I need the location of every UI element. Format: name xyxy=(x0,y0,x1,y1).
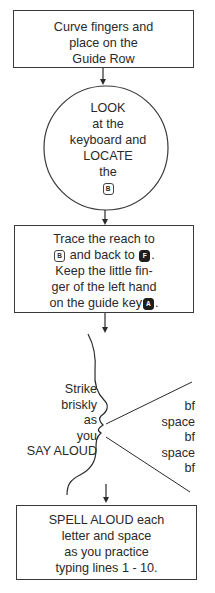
step2-line: at the xyxy=(48,116,168,132)
step3-text: . xyxy=(155,296,159,310)
step3-line: Keep the little fin- xyxy=(15,263,193,279)
spoken-item: bf xyxy=(161,430,195,446)
step4-left-line: as xyxy=(27,413,97,429)
step3-line: B and back to F. xyxy=(15,247,193,263)
spoken-item: space xyxy=(161,415,195,431)
step3-line: Trace the reach to xyxy=(15,231,193,247)
step4-left-line: SAY ALOUD xyxy=(27,444,97,460)
step5-line: typing lines 1 - 10. xyxy=(17,560,196,576)
step2-line: LOCATE xyxy=(48,148,168,164)
step3-box: Trace the reach to B and back to F. Keep… xyxy=(14,225,194,313)
step2-line: keyboard and xyxy=(48,132,168,148)
step4-say-text: Strike briskly as you SAY ALOUD xyxy=(27,382,97,460)
step5-line: letter and space xyxy=(17,528,196,544)
step4-spoken-sequence: bf space bf space bf xyxy=(161,399,195,477)
a-key-icon: A xyxy=(143,298,154,310)
spoken-item: bf xyxy=(161,399,195,415)
step1-line: Curve fingers and xyxy=(14,19,193,35)
step2-circle-text: LOOK at the keyboard and LOCATE the B xyxy=(48,100,168,196)
step1-box: Curve fingers and place on the Guide Row xyxy=(13,10,194,68)
f-key-icon: F xyxy=(139,250,150,262)
step3-line: ger of the left hand xyxy=(15,279,193,295)
b-key-icon: B xyxy=(103,183,114,195)
spoken-item: space xyxy=(161,446,195,462)
step1-line: place on the xyxy=(14,35,193,51)
step2-line: LOOK xyxy=(48,100,168,116)
step2-line: the xyxy=(48,164,168,180)
step3-line: on the guide keyA. xyxy=(15,295,193,311)
step4-left-line: you xyxy=(27,429,97,445)
step3-text: and back to xyxy=(66,248,138,262)
step5-line: as you practice xyxy=(17,544,196,560)
step4-left-line: briskly xyxy=(27,398,97,414)
step3-text: on the guide key xyxy=(50,296,142,310)
step1-line: Guide Row xyxy=(14,51,193,67)
spoken-item: bf xyxy=(161,461,195,477)
step5-line: SPELL ALOUD each xyxy=(17,512,196,528)
step5-box: SPELL ALOUD each letter and space as you… xyxy=(16,505,197,580)
step4-left-line: Strike xyxy=(27,382,97,398)
b-key-icon: B xyxy=(54,250,65,262)
step3-text: . xyxy=(151,248,155,262)
